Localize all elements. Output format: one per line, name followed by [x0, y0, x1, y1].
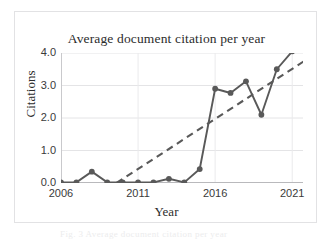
- chart-title: Average document citation per year: [15, 31, 318, 47]
- data-point-marker: [228, 90, 234, 96]
- data-point-marker: [212, 86, 218, 92]
- x-axis-title: Year: [15, 204, 318, 220]
- data-point-marker: [135, 179, 141, 183]
- data-point-marker: [274, 66, 280, 72]
- data-point-marker: [243, 78, 249, 84]
- figure-card: Average document citation per year Citat…: [14, 11, 317, 223]
- data-point-marker: [89, 169, 95, 175]
- y-axis-title: Citations: [23, 48, 39, 140]
- data-point-marker: [166, 176, 172, 182]
- chart-canvas: [61, 53, 303, 183]
- data-point-marker: [151, 179, 157, 183]
- x-axis-tick-label: 2016: [195, 187, 235, 199]
- x-axis-tick-label: 2011: [118, 187, 158, 199]
- data-point-marker: [258, 112, 264, 118]
- data-point-marker: [197, 166, 203, 172]
- gridlines: [61, 53, 303, 183]
- y-axis-tick-label: 4.0: [26, 46, 56, 58]
- y-axis-tick-label: 1.0: [26, 144, 56, 156]
- x-axis-tick-label: 2006: [41, 187, 81, 199]
- figure-caption-ghost: Fig. 3 Average document citation per yea…: [60, 229, 250, 239]
- plot-area: [61, 53, 303, 183]
- y-axis-tick-label: 3.0: [26, 79, 56, 91]
- x-axis-tick-label: 2021: [272, 187, 312, 199]
- y-axis-tick-label: 2.0: [26, 111, 56, 123]
- data-point-marker: [61, 179, 64, 183]
